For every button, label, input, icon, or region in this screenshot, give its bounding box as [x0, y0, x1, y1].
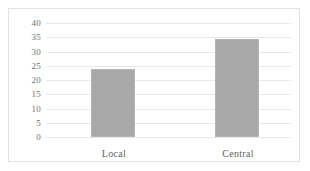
y-tick-label-15: 15 [32, 90, 41, 99]
y-tick-label-35: 35 [32, 33, 41, 42]
chart-screenshot: 0 5 10 15 20 25 30 35 40 [0, 0, 310, 171]
y-tick-label-0: 0 [36, 133, 41, 142]
bar-central: Central [215, 39, 259, 137]
chart-frame: 0 5 10 15 20 25 30 35 40 [8, 8, 300, 162]
bar-local: Local [91, 69, 135, 137]
y-tick-label-30: 30 [32, 47, 41, 56]
plot-area: 0 5 10 15 20 25 30 35 40 [46, 23, 291, 137]
y-tick-label-20: 20 [32, 76, 41, 85]
category-label-local: Local [102, 149, 126, 159]
y-tick-label-5: 5 [36, 118, 41, 127]
category-label-central: Central [222, 149, 254, 159]
gridline-0: 0 [46, 137, 291, 138]
y-tick-label-25: 25 [32, 61, 41, 70]
gridline-40: 40 [46, 23, 291, 24]
y-tick-label-10: 10 [32, 104, 41, 113]
y-tick-label-40: 40 [32, 19, 41, 28]
